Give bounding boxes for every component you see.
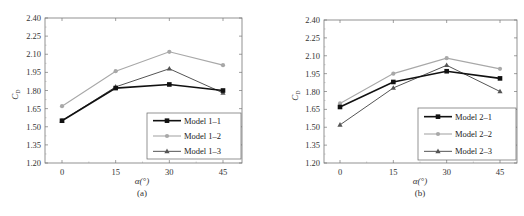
y-tick-label: 2.10	[305, 51, 320, 61]
x-tick-label: 0	[338, 167, 342, 177]
legend-label: Model 1–2	[184, 131, 221, 141]
square-marker-icon	[444, 69, 449, 74]
x-axis-title: α(°)	[135, 176, 149, 186]
series-line	[340, 71, 500, 107]
y-tick-label: 1.35	[26, 140, 41, 150]
circle-marker-icon	[165, 134, 169, 138]
x-tick-label: 15	[389, 167, 398, 177]
triangle-marker-icon	[444, 62, 449, 67]
circle-marker-icon	[498, 67, 502, 71]
panel-caption: (b)	[415, 188, 426, 198]
legend-label: Model 2–3	[455, 146, 492, 156]
square-marker-icon	[338, 105, 343, 110]
y-tick-label: 1.50	[26, 122, 41, 132]
square-marker-icon	[167, 82, 172, 87]
y-tick-label: 1.35	[305, 140, 320, 150]
square-marker-icon	[391, 80, 396, 85]
square-marker-icon	[165, 118, 170, 123]
circle-marker-icon	[221, 63, 225, 67]
series-line	[62, 52, 223, 106]
y-tick-label: 2.40	[26, 13, 41, 23]
square-marker-icon	[60, 118, 65, 123]
chart-panel-a: 1.201.351.501.651.801.952.102.252.400153…	[10, 13, 242, 198]
y-tick-label: 1.20	[26, 158, 41, 168]
y-axis-title-sub: D	[295, 90, 301, 95]
x-tick-label: 0	[60, 167, 64, 177]
circle-marker-icon	[445, 56, 449, 60]
y-tick-label: 1.80	[305, 87, 320, 97]
circle-marker-icon	[167, 50, 171, 54]
y-tick-label: 1.95	[26, 67, 41, 77]
x-axis-title: α(°)	[413, 176, 427, 186]
square-marker-icon	[498, 76, 503, 81]
y-tick-label: 2.40	[305, 15, 320, 25]
y-tick-label: 1.95	[305, 69, 320, 79]
y-tick-label: 2.10	[26, 49, 41, 59]
x-tick-label: 30	[442, 167, 451, 177]
legend-label: Model 2–2	[455, 129, 492, 139]
triangle-marker-icon	[337, 122, 342, 127]
square-marker-icon	[113, 86, 118, 91]
triangle-marker-icon	[167, 66, 172, 71]
y-tick-label: 1.20	[305, 158, 320, 168]
square-marker-icon	[436, 114, 441, 119]
chart-panel-b: 1.201.351.501.651.801.952.102.252.400153…	[290, 15, 517, 198]
square-marker-icon	[221, 88, 226, 93]
y-tick-label: 2.25	[26, 31, 41, 41]
y-axis-title: CD	[290, 90, 301, 101]
y-tick-label: 1.65	[305, 104, 320, 114]
circle-marker-icon	[391, 72, 395, 76]
legend-label: Model 1–1	[184, 116, 221, 126]
x-tick-label: 45	[219, 167, 228, 177]
panel-caption: (a)	[137, 188, 147, 198]
data-series	[338, 69, 503, 109]
series-line	[340, 58, 500, 103]
y-axis-title: CD	[10, 89, 21, 100]
legend: Model 1–1Model 1–2Model 1–3	[147, 113, 241, 159]
circle-marker-icon	[60, 104, 64, 108]
circle-marker-icon	[114, 69, 118, 73]
y-tick-label: 1.80	[26, 86, 41, 96]
data-series	[60, 50, 225, 109]
y-tick-label: 2.25	[305, 33, 320, 43]
legend: Model 2–1Model 2–2Model 2–3	[418, 108, 516, 160]
figure: 1.201.351.501.651.801.952.102.252.400153…	[0, 0, 524, 216]
x-tick-label: 45	[496, 167, 505, 177]
x-tick-label: 15	[111, 167, 120, 177]
circle-marker-icon	[436, 132, 440, 136]
y-axis-title-sub: D	[15, 89, 21, 94]
y-tick-label: 1.50	[305, 122, 320, 132]
x-tick-label: 30	[165, 167, 174, 177]
legend-label: Model 1–3	[184, 146, 221, 156]
y-tick-label: 1.65	[26, 104, 41, 114]
legend-label: Model 2–1	[455, 112, 492, 122]
